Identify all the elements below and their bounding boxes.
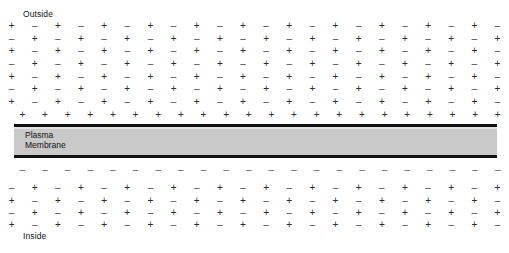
plasma-membrane-label: Plasma Membrane	[25, 131, 66, 150]
outside-negative-charge: –	[116, 46, 139, 56]
inside-positive-charge: +	[0, 220, 23, 230]
outside-positive-charge: +	[208, 59, 231, 69]
outside-negative-charge: –	[486, 46, 509, 56]
inside-row: –+–+–+–+–+–+–+–+–+–+–+	[0, 182, 509, 194]
inside-negative-charge: –	[440, 196, 463, 206]
outside-charge-lattice: +–+–+–+–+–+–+–+–+–+–+––+–+–+–+–+–+–+–+–+…	[0, 20, 509, 108]
outside-negative-charge: –	[0, 59, 23, 69]
outside-negative-charge: –	[324, 59, 347, 69]
outside-negative-charge: –	[347, 21, 370, 31]
outside-negative-charge: –	[162, 46, 185, 56]
outside-positive-charge: +	[417, 46, 440, 56]
inside-positive-charge: +	[393, 183, 416, 193]
outside-negative-charge: –	[0, 84, 23, 94]
outside-row: +–+–+–+–+–+–+–+–+–+–+–	[0, 20, 509, 33]
inside-positive-charge: +	[185, 220, 208, 230]
inside-positive-charge: +	[347, 183, 370, 193]
inside-positive-charge: +	[278, 196, 301, 206]
outside-positive-charge: +	[69, 34, 92, 44]
outside-positive-charge: +	[347, 84, 370, 94]
outer-surface-positive-charge: +	[192, 110, 215, 120]
inside-positive-charge: +	[463, 196, 486, 206]
outside-positive-charge: +	[417, 97, 440, 107]
inside-row: +–+–+–+–+–+–+–+–+–+–+–	[0, 219, 509, 231]
inner-surface-negative-charge: –	[147, 165, 170, 175]
inside-positive-charge: +	[93, 196, 116, 206]
inside-negative-charge: –	[255, 220, 278, 230]
outside-positive-charge: +	[463, 46, 486, 56]
membrane-highlight	[14, 127, 497, 129]
outside-negative-charge: –	[417, 59, 440, 69]
inside-positive-charge: +	[116, 183, 139, 193]
outer-surface-positive-charge: +	[102, 110, 125, 120]
outside-negative-charge: –	[301, 97, 324, 107]
inside-positive-charge: +	[486, 183, 509, 193]
inside-negative-charge: –	[46, 208, 69, 218]
inside-negative-charge: –	[324, 183, 347, 193]
inner-surface-negative-charge: –	[215, 165, 238, 175]
outer-surface-positive-charge: +	[169, 110, 192, 120]
inside-positive-charge: +	[69, 208, 92, 218]
outside-negative-charge: –	[370, 59, 393, 69]
inside-negative-charge: –	[347, 196, 370, 206]
outside-positive-charge: +	[324, 72, 347, 82]
outside-negative-charge: –	[463, 34, 486, 44]
inside-positive-charge: +	[486, 208, 509, 218]
inside-negative-charge: –	[93, 208, 116, 218]
outside-positive-charge: +	[208, 84, 231, 94]
outside-negative-charge: –	[370, 84, 393, 94]
outside-negative-charge: –	[139, 59, 162, 69]
outside-positive-charge: +	[486, 34, 509, 44]
outside-negative-charge: –	[486, 97, 509, 107]
inside-negative-charge: –	[69, 220, 92, 230]
outer-surface-positive-charge: +	[419, 110, 442, 120]
inside-negative-charge: –	[0, 183, 23, 193]
outside-negative-charge: –	[23, 21, 46, 31]
outside-row: +–+–+–+–+–+–+–+–+–+–+–	[0, 70, 509, 83]
outside-negative-charge: –	[255, 21, 278, 31]
outside-negative-charge: –	[278, 59, 301, 69]
outside-positive-charge: +	[417, 21, 440, 31]
inside-row: –+–+–+–+–+–+–+–+–+–+–+	[0, 207, 509, 219]
outside-positive-charge: +	[255, 84, 278, 94]
outside-positive-charge: +	[301, 34, 324, 44]
inside-negative-charge: –	[278, 183, 301, 193]
outside-positive-charge: +	[185, 21, 208, 31]
outside-positive-charge: +	[370, 21, 393, 31]
outside-positive-charge: +	[0, 21, 23, 31]
inner-membrane-surface-charge-row: ––––––––––––––––––––––	[0, 164, 509, 175]
outside-row: +–+–+–+–+–+–+–+–+–+–+–	[0, 96, 509, 109]
inside-negative-charge: –	[185, 183, 208, 193]
outside-positive-charge: +	[463, 21, 486, 31]
inside-negative-charge: –	[278, 208, 301, 218]
inside-negative-charge: –	[347, 220, 370, 230]
inside-positive-charge: +	[301, 183, 324, 193]
outside-negative-charge: –	[463, 59, 486, 69]
outside-negative-charge: –	[93, 34, 116, 44]
outside-positive-charge: +	[440, 84, 463, 94]
outside-negative-charge: –	[278, 84, 301, 94]
inside-negative-charge: –	[301, 220, 324, 230]
inside-negative-charge: –	[46, 183, 69, 193]
inside-negative-charge: –	[162, 196, 185, 206]
inside-negative-charge: –	[0, 208, 23, 218]
inside-positive-charge: +	[231, 220, 254, 230]
inside-negative-charge: –	[116, 196, 139, 206]
outside-positive-charge: +	[440, 34, 463, 44]
outer-surface-positive-charge: +	[34, 110, 57, 120]
outside-negative-charge: –	[417, 84, 440, 94]
inside-positive-charge: +	[440, 183, 463, 193]
outer-surface-positive-charge: +	[260, 110, 283, 120]
outside-negative-charge: –	[139, 34, 162, 44]
outside-positive-charge: +	[417, 72, 440, 82]
inside-positive-charge: +	[347, 208, 370, 218]
outer-surface-positive-charge: +	[351, 110, 374, 120]
inner-surface-negative-charge: –	[102, 165, 125, 175]
outer-surface-positive-charge: +	[215, 110, 238, 120]
outside-positive-charge: +	[278, 21, 301, 31]
inside-positive-charge: +	[370, 220, 393, 230]
inside-negative-charge: –	[417, 183, 440, 193]
outside-negative-charge: –	[208, 97, 231, 107]
outside-positive-charge: +	[393, 34, 416, 44]
inside-negative-charge: –	[23, 196, 46, 206]
